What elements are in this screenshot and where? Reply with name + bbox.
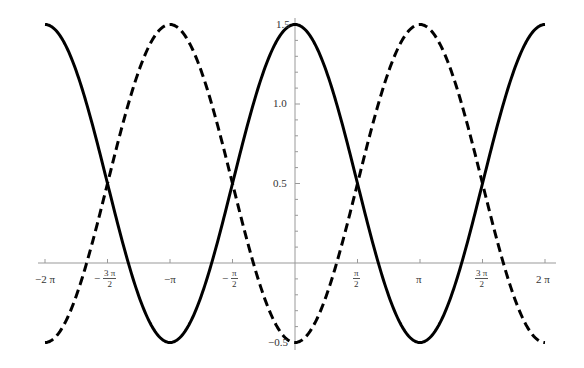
plot-area: −2 π − 3 π 2 −π − π 2 π 2 π 3 π 2 2 π −0… xyxy=(0,0,584,368)
y-tick-label-1-5: 1.5 xyxy=(276,18,290,30)
chart-canvas xyxy=(0,0,584,368)
x-tick-label-2pi: 2 π xyxy=(536,273,550,285)
x-tick-label-neg-pi-2: − π 2 xyxy=(231,268,238,289)
x-tick-label-pi: π xyxy=(416,273,422,285)
x-tick-label-neg-3pi-2: − 3 π 2 xyxy=(103,268,116,289)
y-tick-label-0-5: 0.5 xyxy=(273,177,287,189)
y-tick-label-neg-0-5: −0.5 xyxy=(268,336,288,348)
x-tick-label-pi-2: π 2 xyxy=(353,268,360,289)
x-tick-label-neg-pi: −π xyxy=(164,273,176,285)
x-tick-label-3pi-2: 3 π 2 xyxy=(475,268,488,289)
x-tick-label-neg-2pi: −2 π xyxy=(35,273,55,285)
y-tick-label-1-0: 1.0 xyxy=(273,97,287,109)
